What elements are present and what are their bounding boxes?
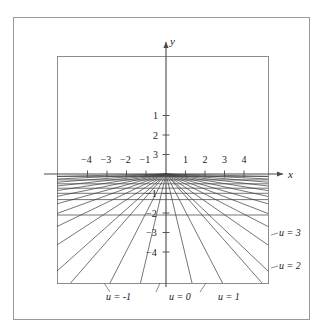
x-tick-label-3: 3 <box>222 155 227 165</box>
y-tick-label--3: −3 <box>146 228 157 238</box>
x-tick-label-4: 4 <box>242 155 247 165</box>
y-axis-arrow <box>163 42 168 48</box>
y-tick-label--2: −2 <box>146 209 157 219</box>
y-axis-label: y <box>170 36 175 46</box>
plot-canvas <box>0 0 326 335</box>
x-axis-label: x <box>288 169 293 179</box>
y-tick-label--4: −4 <box>146 248 157 258</box>
x-tick-label-1: 1 <box>183 155 188 165</box>
y-tick-label-2: 2 <box>153 131 158 141</box>
u-rays <box>57 174 268 283</box>
y-tick-label-1: 1 <box>153 111 158 121</box>
annotation-u-0: u = 0 <box>169 292 191 302</box>
annotation-u--1: u = -1 <box>106 292 131 302</box>
y-tick-label-3: 3 <box>153 150 158 160</box>
x-tick-label--1: −1 <box>140 155 151 165</box>
x-tick-label--4: −4 <box>81 155 92 165</box>
y-tick-label--1: −1 <box>146 189 157 199</box>
annotation-u-1: u = 1 <box>218 292 240 302</box>
annotation-u-2: u = 2 <box>279 261 301 271</box>
curve-family <box>57 174 268 283</box>
plot-box <box>58 57 269 284</box>
x-axis-arrow <box>277 171 283 176</box>
x-tick-label--2: −2 <box>120 155 131 165</box>
x-tick-label-2: 2 <box>203 155 208 165</box>
annotation-u-3: u = 3 <box>279 228 301 238</box>
x-tick-label--3: −3 <box>101 155 112 165</box>
conformal-map-figure: x y −4 −3 −2 −1 1 2 3 4 3 2 1 −1 −2 −3 −… <box>0 0 326 335</box>
